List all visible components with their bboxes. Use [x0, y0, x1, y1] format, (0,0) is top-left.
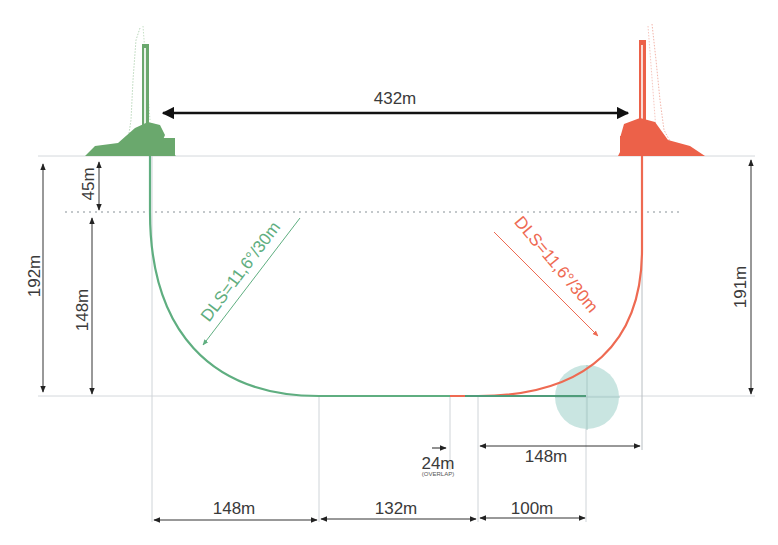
left-dls-annotation: DLS=11,6°/30m — [197, 218, 300, 345]
right-dls-label: DLS=11,6°/30m — [511, 213, 602, 317]
bottom-right-label: 100m — [511, 499, 554, 518]
overlap-note: (OVERLAP) — [422, 471, 454, 477]
bottom-middle-label: 132m — [375, 499, 418, 518]
right-horizontal-offset-dimension: 148m — [480, 446, 640, 466]
left-kickoff-label: 45m — [79, 167, 98, 200]
rig-spacing-dimension: 432m — [163, 89, 628, 113]
bottom-dimensions: 148m 132m 100m — [154, 499, 585, 520]
right-total-depth-label: 191m — [731, 266, 750, 309]
right-offset-label: 148m — [525, 447, 568, 466]
guide-lines — [38, 156, 755, 522]
well-trajectory-diagram: 432m 192m 45m 148m 191m DLS=11,6°/30m DL… — [0, 0, 778, 545]
right-dls-annotation: DLS=11,6°/30m — [494, 213, 602, 336]
right-total-depth-dimension: 191m — [731, 160, 751, 394]
rig-spacing-label: 432m — [374, 89, 417, 108]
target-zone — [555, 365, 620, 430]
left-kickoff-dimension: 45m — [79, 162, 99, 210]
left-dls-label: DLS=11,6°/30m — [197, 218, 284, 325]
red-well-path — [450, 156, 642, 396]
left-total-depth-dimension: 192m — [25, 164, 44, 392]
left-total-depth-label: 192m — [25, 255, 44, 298]
left-build-label: 148m — [73, 289, 92, 332]
left-build-dimension: 148m — [73, 218, 92, 394]
right-drilling-rig-icon — [618, 24, 705, 156]
green-well-path — [150, 156, 586, 396]
bottom-left-label: 148m — [213, 499, 256, 518]
left-drilling-rig-icon — [85, 26, 176, 156]
